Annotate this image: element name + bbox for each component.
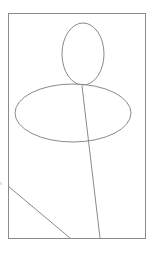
drawing-canvas	[0, 0, 163, 259]
head-ellipse	[62, 23, 104, 85]
body-ellipse	[15, 84, 131, 142]
vertical-line	[82, 86, 100, 238]
diagonal-line	[8, 186, 70, 238]
